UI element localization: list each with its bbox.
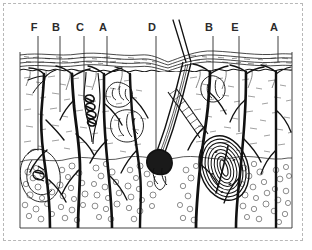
label-b-left: B — [50, 22, 62, 33]
figure-page: FBCADBEA — [0, 0, 312, 250]
label-f-left: F — [28, 22, 40, 33]
label-e-right: E — [229, 22, 241, 33]
label-a-right: A — [268, 22, 280, 33]
hair-follicle — [147, 62, 191, 190]
hair-shaft — [173, 20, 191, 62]
label-a-left: A — [97, 22, 109, 33]
skin-diagram-svg — [0, 0, 312, 250]
label-b-right: B — [203, 22, 215, 33]
label-d-mid: D — [146, 22, 158, 33]
label-c-left: C — [74, 22, 86, 33]
skin-cross-section-illustration — [0, 0, 312, 250]
dermal-receptor-oval — [201, 76, 225, 102]
